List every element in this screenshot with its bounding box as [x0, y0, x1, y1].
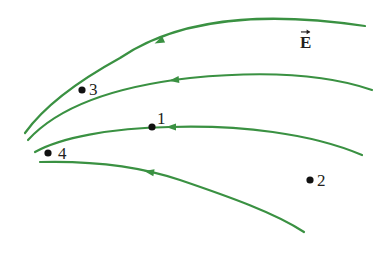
field-line [25, 19, 365, 133]
field-lines [25, 19, 372, 232]
point-2-dot [306, 176, 313, 183]
electric-field-label: E [300, 34, 311, 51]
electric-field-symbol: E [300, 33, 311, 52]
point-1-dot [148, 123, 155, 130]
field-line [28, 74, 372, 140]
field-line-diagram [0, 0, 389, 255]
point-3-dot [78, 86, 85, 93]
point-3-label: 3 [89, 81, 98, 98]
vector-arrow-icon [300, 27, 311, 35]
point-2-label: 2 [317, 172, 326, 189]
point-4-dot [44, 149, 51, 156]
field-line [40, 162, 304, 232]
point-1-label: 1 [157, 110, 166, 127]
arrowhead-icon [166, 124, 176, 131]
field-line [35, 127, 362, 155]
point-4-label: 4 [58, 145, 67, 162]
arrowhead-icon [143, 168, 154, 177]
